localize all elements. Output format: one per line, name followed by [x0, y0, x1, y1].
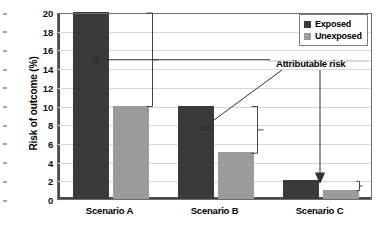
y-axis-tick-mark [3, 88, 7, 89]
x-axis-label-scenario-c: Scenario C [296, 205, 344, 216]
x-axis-label-scenario-a: Scenario A [86, 205, 133, 216]
y-axis-tick-label: 8 [7, 120, 53, 131]
y-axis-tick-mark [3, 181, 7, 182]
y-axis-tick-mark [3, 50, 7, 51]
y-axis-tick-mark [3, 163, 7, 164]
attributable-risk-label: Attributable risk [276, 58, 345, 69]
y-axis-tick-mark [3, 69, 7, 70]
y-axis-tick-mark [3, 107, 7, 108]
legend-label-exposed: Exposed [315, 19, 351, 29]
y-axis-tick-label: 18 [7, 26, 53, 37]
y-axis-tick-label: 16 [7, 45, 53, 56]
bar-unexposed-scenario-a [113, 106, 149, 200]
chart-legend: Exposed Unexposed [299, 14, 368, 46]
bar-exposed-scenario-a [73, 12, 109, 199]
bar-unexposed-scenario-c [323, 190, 359, 199]
y-axis-tick-mark [3, 144, 7, 145]
y-axis-tick-label: 6 [7, 138, 53, 149]
legend-item-exposed: Exposed [304, 18, 362, 30]
bar-exposed-scenario-c [283, 180, 319, 199]
legend-swatch-unexposed-icon [304, 33, 311, 40]
y-axis-tick-label: 20 [7, 8, 53, 19]
legend-label-unexposed: Unexposed [315, 31, 362, 41]
y-axis-tick-mark [3, 125, 7, 126]
y-axis-tick-label: 0 [7, 195, 53, 206]
legend-item-unexposed: Unexposed [304, 30, 362, 42]
bar-exposed-scenario-b [178, 106, 214, 200]
chart-figure: Risk of outcome (%) 02468101214161820 Sc… [0, 0, 386, 235]
y-axis-tick-mark [3, 200, 7, 201]
y-axis-tick-label: 2 [7, 176, 53, 187]
y-axis-tick-label: 14 [7, 64, 53, 75]
y-axis-tick-label: 4 [7, 157, 53, 168]
y-axis-tick-label: 12 [7, 82, 53, 93]
legend-swatch-exposed-icon [304, 21, 311, 28]
y-axis-tick-mark [3, 13, 7, 14]
bar-unexposed-scenario-b [218, 152, 254, 199]
y-axis-tick-label: 10 [7, 101, 53, 112]
x-axis-label-scenario-b: Scenario B [191, 205, 239, 216]
y-axis-tick-mark [3, 32, 7, 33]
